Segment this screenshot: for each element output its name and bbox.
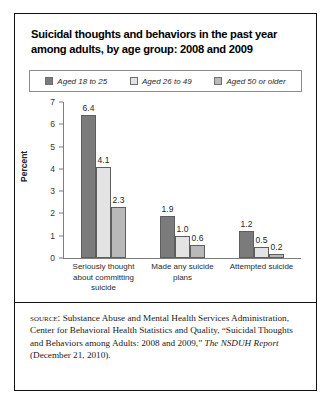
source-divider (15, 302, 316, 303)
chart-legend: Aged 18 to 25 Aged 26 to 49 Aged 50 or o… (29, 70, 302, 92)
bar-slot: 0.6 (190, 102, 205, 258)
legend-item-aged-18-to-25[interactable]: Aged 18 to 25 (45, 77, 107, 86)
bar-slot: 2.3 (111, 102, 126, 258)
x-axis-label: Attempted suicide (225, 262, 299, 294)
bar[interactable] (160, 216, 175, 258)
bar[interactable] (269, 254, 284, 259)
bars-container: 6.4 4.1 2.3 1.9 1.0 (64, 102, 301, 258)
y-tick-label: 3 (50, 186, 55, 196)
bar[interactable] (254, 247, 269, 258)
bar-value-label: 0.2 (271, 242, 283, 252)
bar[interactable] (81, 115, 96, 258)
plot-area: Percent 7 6 5 4 3 2 1 0 6.4 (15, 102, 316, 302)
bar-slot: 0.2 (269, 102, 284, 258)
bar[interactable] (239, 231, 254, 258)
bar[interactable] (175, 236, 190, 258)
source-note: source: Substance Abuse and Mental Healt… (30, 312, 301, 362)
legend-swatch-icon (45, 77, 53, 85)
y-tick-label: 5 (50, 142, 55, 152)
y-tick-label: 7 (50, 97, 55, 107)
y-axis-label: Percent (19, 151, 29, 182)
bar-value-label: 0.6 (192, 233, 204, 243)
y-tick-label: 6 (50, 119, 55, 129)
bar-value-label: 1.9 (162, 204, 174, 214)
bar-slot: 1.9 (160, 102, 175, 258)
page-title: Suicidal thoughts and behaviors in the p… (31, 27, 300, 56)
legend-item-aged-26-to-49[interactable]: Aged 26 to 49 (130, 77, 192, 86)
bar-slot: 6.4 (81, 102, 96, 258)
bar-value-label: 1.0 (177, 224, 189, 234)
source-text-part-2: (December 21, 2010). (30, 350, 111, 360)
bar-group: 6.4 4.1 2.3 (81, 102, 126, 258)
legend-label: Aged 18 to 25 (57, 77, 107, 86)
bar-slot: 1.0 (175, 102, 190, 258)
x-axis-category-labels: Seriously thought about committing suici… (64, 262, 301, 294)
bar-slot: 4.1 (96, 102, 111, 258)
source-report-title: The NSDUH Report (205, 338, 279, 348)
legend-swatch-icon (214, 77, 222, 85)
y-tick-label: 4 (50, 164, 55, 174)
legend-label: Aged 26 to 49 (142, 77, 192, 86)
bar-value-label: 6.4 (83, 103, 95, 113)
legend-item-aged-50-or-older[interactable]: Aged 50 or older (214, 77, 285, 86)
bar-value-label: 1.2 (241, 219, 253, 229)
y-tick-label: 1 (50, 231, 55, 241)
bar[interactable] (111, 207, 126, 258)
figure-panel: Suicidal thoughts and behaviors in the p… (14, 13, 317, 391)
y-tick-label: 2 (50, 208, 55, 218)
y-tick-label: 0 (50, 253, 55, 263)
source-kicker: source: (30, 312, 60, 323)
bar[interactable] (96, 167, 111, 258)
x-axis-label: Seriously thought about committing suici… (67, 262, 141, 294)
bar-value-label: 2.3 (113, 195, 125, 205)
x-axis-line (63, 258, 301, 259)
bar-value-label: 0.5 (256, 235, 268, 245)
bar-value-label: 4.1 (98, 155, 110, 165)
x-axis-label: Made any suicide plans (146, 262, 220, 294)
legend-label: Aged 50 or older (226, 77, 285, 86)
bar-group: 1.9 1.0 0.6 (160, 102, 205, 258)
bar-slot: 1.2 (239, 102, 254, 258)
bar-group: 1.2 0.5 0.2 (239, 102, 284, 258)
y-axis-ticks: 7 6 5 4 3 2 1 0 (33, 102, 59, 258)
legend-swatch-icon (130, 77, 138, 85)
bar-slot: 0.5 (254, 102, 269, 258)
bar[interactable] (190, 245, 205, 258)
